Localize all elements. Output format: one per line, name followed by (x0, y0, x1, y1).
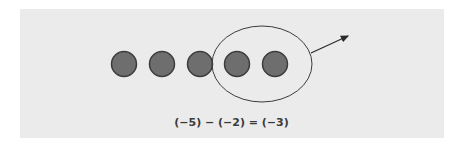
negative-counter (263, 52, 288, 77)
negative-counter (150, 52, 175, 77)
equation-label: (−5) − (−2) = (−3) (0, 116, 463, 129)
negative-counter (112, 52, 137, 77)
negative-counter (225, 52, 250, 77)
negative-counters (112, 52, 288, 77)
removal-arrow-icon (311, 36, 348, 53)
negative-counter (188, 52, 213, 77)
